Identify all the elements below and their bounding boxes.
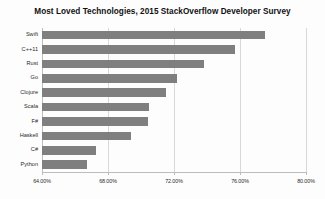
x-axis-tick-mark (108, 172, 109, 175)
x-axis-tick-label: 80.00% (297, 178, 315, 184)
bar-row (42, 129, 131, 143)
x-axis-tick-label: 76.00% (231, 178, 249, 184)
bar (42, 117, 148, 126)
bar-row (42, 114, 148, 128)
bar (42, 60, 204, 69)
bar-row (42, 100, 149, 114)
y-axis-tick-label: Rust (26, 61, 38, 67)
y-axis-tick-label: Python (21, 162, 38, 168)
y-axis-tick-label: C# (31, 147, 38, 153)
x-axis-tick-label: 72.00% (165, 178, 183, 184)
x-axis-tick-label: 64.00% (33, 178, 51, 184)
x-axis-tick-mark (240, 172, 241, 175)
bar-row (42, 158, 87, 172)
bar-row (42, 28, 265, 42)
bar-row (42, 42, 235, 56)
bar (42, 103, 149, 112)
y-axis-tick-label: F# (31, 119, 38, 125)
y-axis-tick-label: Go (31, 75, 38, 81)
bar-row (42, 143, 96, 157)
bar (42, 88, 166, 97)
x-axis-tick-mark (174, 172, 175, 175)
gridline (306, 28, 307, 172)
x-axis-tick-label: 68.00% (99, 178, 117, 184)
bar (42, 74, 177, 83)
bar (42, 160, 87, 169)
bar-row (42, 86, 166, 100)
y-axis-tick-label: C++11 (22, 47, 38, 53)
y-axis-tick-label: Scala (24, 104, 38, 110)
bar-row (42, 57, 204, 71)
x-axis-tick-mark (306, 172, 307, 175)
bar-chart: Most Loved Technologies, 2015 StackOverf… (0, 0, 325, 199)
gridline (240, 28, 241, 172)
bar-row (42, 71, 177, 85)
bar (42, 146, 96, 155)
y-axis-tick-label: Swift (26, 32, 38, 38)
y-axis-tick-label: Haskell (20, 133, 38, 139)
y-axis-tick-label: Clojure (20, 90, 38, 96)
bar (42, 31, 265, 40)
bar (42, 132, 131, 141)
plot-area (42, 28, 306, 172)
chart-title: Most Loved Technologies, 2015 StackOverf… (0, 7, 325, 16)
x-axis-tick-mark (42, 172, 43, 175)
bar (42, 45, 235, 54)
